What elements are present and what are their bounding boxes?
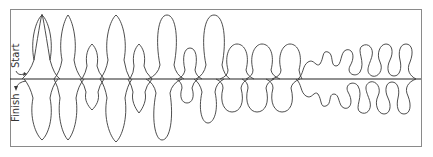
start-marker: Start [10, 43, 27, 76]
start-label: Start [10, 43, 21, 68]
diagram-frame [11, 10, 422, 147]
elongated-loops-top [148, 15, 230, 79]
elongated-loops-bottom [146, 79, 224, 140]
wavy-meander-bottom [296, 79, 416, 114]
pointed-leaves-top [22, 15, 152, 79]
finish-arrowhead-icon [14, 86, 18, 91]
stitch-path-diagram: Start Finish [0, 0, 433, 157]
start-arrow-icon [16, 71, 24, 75]
round-loops-bottom [216, 79, 300, 112]
round-loops-top [220, 44, 302, 79]
wavy-meander-top [298, 44, 416, 79]
finish-label: Finish [10, 94, 21, 122]
finish-marker: Finish [10, 81, 26, 122]
pointed-leaves-bottom [24, 79, 152, 142]
